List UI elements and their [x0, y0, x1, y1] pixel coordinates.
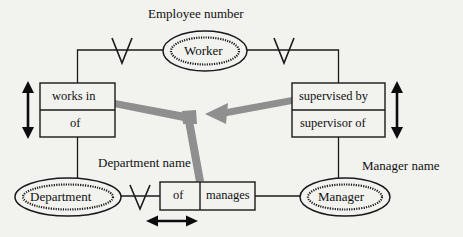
gray-branch-supervised-by: [221, 97, 292, 117]
line-works-in-to-worker: [78, 50, 164, 83]
er-diagram: Employee number Department name Manager …: [0, 0, 463, 237]
relationship-cell-manages-right[interactable]: manages: [206, 189, 250, 202]
gray-branch-works-in: [114, 100, 191, 122]
entity-label-worker[interactable]: Worker: [184, 44, 223, 57]
arrow-works-in-vertical-icon: [22, 81, 34, 139]
relationship-cell-supervised-by-bottom[interactable]: supervisor of: [300, 117, 366, 130]
relationship-cell-works-in-bottom[interactable]: of: [70, 117, 80, 130]
attribute-label-employee-number: Employee number: [148, 7, 244, 20]
arrow-supervised-by-vertical-icon: [391, 81, 403, 139]
relationship-cell-manages-left[interactable]: of: [173, 189, 183, 202]
attribute-label-manager-name: Manager name: [362, 159, 440, 172]
gray-junction: [182, 110, 197, 124]
arrow-manages-horizontal-icon: [146, 216, 198, 227]
gray-arrowhead-left: [205, 103, 228, 124]
gray-branch-manages: [184, 115, 204, 182]
entity-label-manager[interactable]: Manager: [318, 190, 364, 203]
relationship-cell-supervised-by-top[interactable]: supervised by: [299, 90, 368, 103]
crowsfoot-department-icon: [130, 185, 150, 209]
line-worker-to-supervised-by: [247, 50, 339, 83]
relationship-cell-works-in-top[interactable]: works in: [52, 90, 95, 103]
attribute-label-department-name: Department name: [98, 156, 191, 169]
entity-label-department[interactable]: Department: [30, 190, 91, 203]
